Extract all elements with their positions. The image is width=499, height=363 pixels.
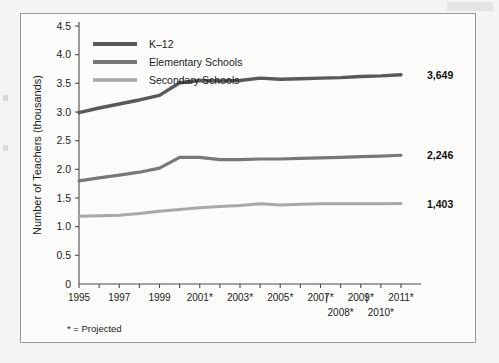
x-label-separator: |: [366, 292, 369, 303]
page-edge-smudge: [447, 2, 493, 11]
x-tick-label: 1999: [148, 292, 171, 303]
x-tick-label: 2005*: [267, 292, 293, 303]
footnote-group: * = Projected: [67, 323, 122, 334]
page-edge-artifact-top: [3, 95, 8, 101]
end-label-group: 3,6492,2461,403: [427, 69, 453, 210]
x-tick-label: 2003*: [227, 292, 253, 303]
y-tick-label: 0.5: [56, 249, 71, 261]
series-line: [79, 155, 401, 181]
x-tick-label-secondary: 2010*: [368, 307, 394, 318]
x-tick-label: 1995: [68, 292, 91, 303]
y-tick-label: 3.0: [56, 106, 71, 118]
y-tick-label: 4.0: [56, 48, 71, 60]
footnote: * = Projected: [67, 323, 122, 334]
y-tick-label: 1.0: [56, 220, 71, 232]
series-end-label: 2,246: [427, 149, 453, 161]
y-tick-label: 1.5: [56, 192, 71, 204]
line-chart: 00.51.01.52.02.53.03.54.04.5199519971999…: [21, 14, 475, 342]
y-tick-label: 3.5: [56, 77, 71, 89]
x-tick-label: 2009*: [348, 292, 374, 303]
y-tick-label: 4.5: [56, 20, 71, 32]
series-line: [79, 204, 401, 217]
x-label-separator: |: [325, 292, 328, 303]
legend-label: K–12: [149, 38, 174, 50]
y-tick-label: 2.5: [56, 134, 71, 146]
series-end-label: 1,403: [427, 198, 453, 210]
x-tick-label: 2007*: [307, 292, 333, 303]
y-tick-label: 0: [65, 278, 71, 290]
x-tick-label: 2001*: [187, 292, 213, 303]
y-axis-title: Number of Teachers (thousands): [31, 75, 43, 235]
legend-label: Elementary Schools: [149, 56, 242, 68]
figure-frame: 00.51.01.52.02.53.03.54.04.5199519971999…: [20, 13, 476, 343]
x-tick-label-secondary: 2008*: [328, 307, 354, 318]
legend-label: Secondary Schools: [149, 74, 239, 86]
x-tick-label: 1997: [108, 292, 131, 303]
legend-group: K–12Elementary SchoolsSecondary Schools: [93, 38, 242, 86]
page-edge-artifact-bottom: [3, 145, 8, 151]
series-end-label: 3,649: [427, 69, 453, 81]
x-tick-label: 2011*: [388, 292, 414, 303]
y-tick-label: 2.0: [56, 163, 71, 175]
series-group: [79, 75, 401, 217]
